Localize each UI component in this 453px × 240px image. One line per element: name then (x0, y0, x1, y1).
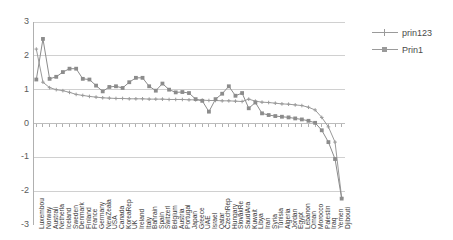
legend-label-prin123: prin123 (398, 28, 432, 38)
legend-item-prin1: Prin1 (372, 41, 450, 58)
x-axis: LuxembouNorwayAustraliNetherlaIcelandSwe… (33, 227, 345, 240)
legend-item-prin123: prin123 (372, 24, 450, 41)
chart-legend: prin123 Prin1 (372, 24, 450, 58)
y-axis-tick-label: 0 (7, 119, 29, 128)
legend-marker-prin1 (372, 45, 398, 55)
plot-area (33, 22, 345, 225)
y-axis-tick-label: -1 (7, 152, 29, 161)
legend-marker-prin123 (372, 28, 398, 38)
chart-container: 3210-1-2-3 LuxembouNorwayAustraliNetherl… (0, 0, 453, 240)
legend-label-prin1: Prin1 (398, 45, 423, 55)
y-axis-tick-label: 3 (7, 17, 29, 26)
y-axis-tick-label: 1 (7, 85, 29, 94)
chart-canvas (33, 22, 345, 225)
y-axis-tick-label: -3 (7, 220, 29, 229)
y-axis-tick-label: -2 (7, 186, 29, 195)
y-axis-tick-label: 2 (7, 51, 29, 60)
y-axis: 3210-1-2-3 (2, 0, 29, 240)
